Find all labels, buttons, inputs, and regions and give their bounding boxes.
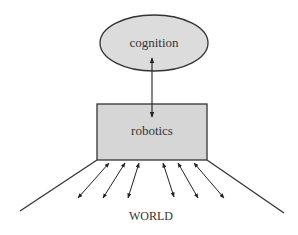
world-arrows (78, 163, 224, 198)
world-arrow-2 (103, 163, 125, 198)
world-arrow-3 (128, 163, 139, 198)
cognition-node: cognition (100, 15, 208, 71)
world-boundary-right-line (207, 160, 284, 213)
world-label: WORLD (129, 209, 173, 223)
world-arrow-4 (163, 163, 174, 197)
robotics-label: robotics (131, 123, 173, 138)
cognition-label: cognition (129, 35, 179, 50)
world-boundary-left-line (20, 160, 97, 211)
world-arrow-1 (78, 163, 109, 198)
world-arrow-5 (178, 163, 198, 198)
cognition-robotics-world-diagram: cognition robotics WORLD (0, 0, 298, 235)
